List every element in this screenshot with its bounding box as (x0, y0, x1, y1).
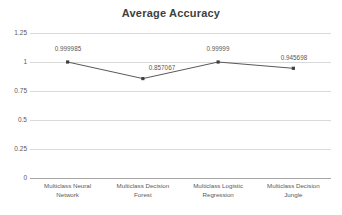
x-axis-category-label-line1: Multiclass Neural (44, 182, 91, 189)
x-axis-baseline (30, 178, 331, 179)
y-axis-tick-label: 0.75 (3, 88, 27, 95)
chart-title: Average Accuracy (0, 7, 342, 19)
y-axis-tick-label: 0 (3, 175, 27, 182)
y-axis-tick-label: 0.5 (3, 117, 27, 124)
y-axis-tick-label: 1 (3, 59, 27, 66)
series-line (68, 62, 294, 79)
x-axis-category-label: Multiclass Decision Forest (105, 182, 180, 210)
x-axis-category-label-line2: Regression (182, 191, 255, 200)
data-point-marker (217, 60, 220, 63)
x-axis-category-label: Multiclass Neural Network (30, 182, 105, 210)
x-axis-category-label-line1: Multiclass Logistic (193, 182, 243, 189)
x-axis-labels: Multiclass Neural Network Multiclass Dec… (30, 182, 331, 210)
data-point-marker (66, 60, 69, 63)
point-value-label: 0.99999 (207, 46, 230, 52)
x-axis-category-label-line2: Network (31, 191, 104, 200)
y-axis-tick-label: 0.25 (3, 146, 27, 153)
plot-area: 0.999985 0.857067 0.99999 0.945698 (30, 33, 331, 178)
x-axis-category-label-line2: Jungle (257, 191, 330, 200)
x-axis-category-label: Multiclass Logistic Regression (181, 182, 256, 210)
point-value-label: 0.999985 (55, 46, 81, 52)
average-accuracy-chart: Average Accuracy 1.25 1 0.75 0.5 0.25 0 … (0, 0, 342, 215)
x-axis-category-label-line2: Forest (106, 191, 179, 200)
x-axis-category-label: Multiclass Decision Jungle (256, 182, 331, 210)
x-axis-category-label-line1: Multiclass Decision (267, 182, 320, 189)
point-value-label: 0.857067 (149, 65, 175, 71)
data-point-marker (141, 77, 144, 80)
data-point-marker (292, 67, 295, 70)
point-value-label: 0.945698 (281, 55, 307, 61)
y-axis-tick-label: 1.25 (3, 30, 27, 37)
x-axis-category-label-line1: Multiclass Decision (117, 182, 170, 189)
